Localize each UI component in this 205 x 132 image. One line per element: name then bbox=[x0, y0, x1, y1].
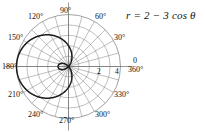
radial-label-4: 4 bbox=[115, 68, 119, 76]
angle-label-120: 120° bbox=[28, 12, 43, 21]
angle-label-180: 180° bbox=[2, 62, 17, 71]
angle-label-0: 0 bbox=[133, 56, 137, 65]
angle-label-210: 210° bbox=[8, 90, 23, 99]
angle-label-240: 240° bbox=[28, 110, 43, 119]
equation-label: r = 2 − 3 cos θ bbox=[126, 9, 196, 21]
angle-label-30: 30° bbox=[114, 33, 125, 42]
angle-label-360: 360° bbox=[128, 65, 143, 74]
polar-chart-figure: r = 2 − 3 cos θ 90° 120° 60° 150° 30° 18… bbox=[0, 0, 205, 132]
angle-label-330: 330° bbox=[114, 90, 129, 99]
angle-label-300: 300° bbox=[95, 110, 110, 119]
angle-label-60: 60° bbox=[95, 12, 106, 21]
angle-label-90: 90° bbox=[60, 6, 71, 15]
angle-label-150: 150° bbox=[8, 33, 23, 42]
angle-label-270: 270° bbox=[59, 116, 74, 125]
radial-label-2: 2 bbox=[97, 68, 101, 76]
equation-text: r = 2 − 3 cos θ bbox=[126, 9, 196, 21]
